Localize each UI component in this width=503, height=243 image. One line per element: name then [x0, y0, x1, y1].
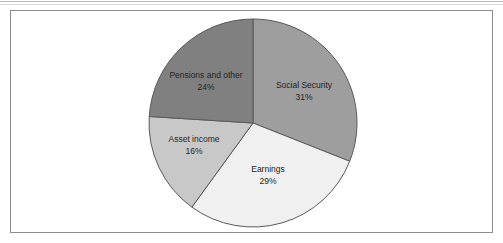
- pie-slice-label-1: Earnings: [251, 164, 285, 174]
- figure-container: Social Security31%Earnings29%Asset incom…: [0, 0, 503, 243]
- pie-slice-label-3: Pensions and other: [169, 70, 242, 80]
- pie-slice-value-2: 16%: [185, 146, 202, 156]
- pie-slice-value-1: 29%: [259, 176, 276, 186]
- pie-slice-label-2: Asset income: [168, 134, 219, 144]
- pie-slice-group: [149, 19, 357, 227]
- pie-chart-plot-area: Social Security31%Earnings29%Asset incom…: [0, 0, 503, 243]
- pie-chart-svg: Social Security31%Earnings29%Asset incom…: [0, 0, 503, 243]
- pie-slice-label-0: Social Security: [276, 80, 333, 90]
- pie-slice-value-3: 24%: [197, 82, 214, 92]
- pie-slice-value-0: 31%: [295, 92, 312, 102]
